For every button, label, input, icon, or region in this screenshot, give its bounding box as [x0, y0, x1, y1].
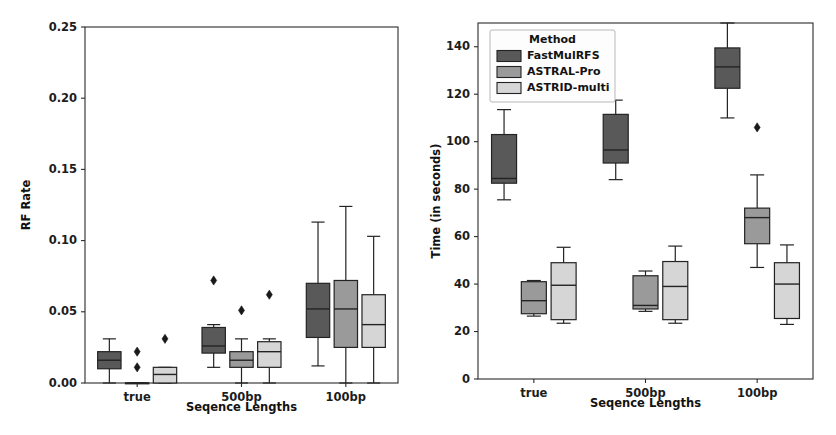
y-tick-label: 20 — [454, 324, 470, 338]
box-body — [153, 367, 176, 383]
box-right-true-ASTRAL-Pro — [521, 281, 546, 317]
legend-label-astrid-multi: ASTRID-multi — [527, 81, 610, 94]
box-body — [551, 263, 576, 320]
legend-title: Method — [529, 33, 576, 46]
legend-label-astral-pro: ASTRAL-Pro — [527, 65, 601, 78]
box-body — [334, 280, 357, 347]
outlier-marker — [134, 347, 140, 356]
box-body — [258, 342, 281, 368]
y-tick-label: 0.05 — [49, 304, 77, 318]
box-body — [745, 208, 770, 244]
legend-swatch-fastmulrfs — [497, 51, 521, 62]
x-tick-label: 100bp — [326, 390, 366, 404]
y-tick-label: 120 — [446, 87, 470, 101]
outlier-marker — [754, 123, 760, 132]
y-tick-label: 0.10 — [49, 233, 77, 247]
x-tick-label: true — [124, 390, 151, 404]
x-axis-label: Seqence Lengths — [186, 400, 297, 414]
outlier-marker — [162, 334, 168, 343]
x-tick-label: 100bp — [737, 386, 777, 400]
legend-swatch-astrid-multi — [497, 83, 521, 94]
box-right-500bp-FastMulRFS — [603, 100, 628, 180]
box-right-100bp-ASTRID-multi — [774, 245, 799, 325]
outlier-marker — [239, 306, 245, 315]
box-left-500bp-ASTRAL-Pro — [230, 306, 253, 383]
y-tick-label: 0 — [462, 372, 470, 386]
x-tick-label: true — [520, 386, 547, 400]
box-right-500bp-ASTRAL-Pro — [633, 271, 658, 311]
legend: MethodFastMulRFSASTRAL-ProASTRID-multi — [490, 30, 615, 102]
figure-root: 0.000.050.100.150.200.25true500bp100bpSe… — [0, 0, 836, 435]
box-left-100bp-FastMulRFS — [306, 222, 329, 366]
legend-label-fastmulrfs: FastMulRFS — [527, 49, 600, 62]
outlier-marker — [134, 363, 140, 372]
box-body — [633, 276, 658, 309]
runtime-boxplot-svg: 020406080100120140true500bp100bpSeqence … — [418, 0, 836, 435]
y-tick-label: 0.25 — [49, 20, 77, 34]
box-left-100bp-ASTRID-multi — [362, 236, 385, 383]
x-axis-label: Seqence Lengths — [590, 396, 701, 410]
box-left-true-ASTRID-multi — [153, 334, 176, 383]
box-left-true-ASTRAL-Pro — [125, 347, 148, 384]
box-right-100bp-ASTRAL-Pro — [745, 123, 770, 268]
y-tick-label: 40 — [454, 277, 470, 291]
legend-swatch-astral-pro — [497, 67, 521, 78]
box-body — [521, 282, 546, 314]
y-tick-label: 100 — [446, 134, 470, 148]
box-right-100bp-FastMulRFS — [715, 23, 740, 118]
y-tick-label: 60 — [454, 229, 470, 243]
y-tick-label: 0.00 — [49, 376, 77, 390]
box-body — [230, 352, 253, 368]
box-right-true-FastMulRFS — [492, 110, 517, 200]
panel-runtime: 020406080100120140true500bp100bpSeqence … — [418, 0, 836, 435]
box-body — [663, 262, 688, 320]
y-tick-label: 80 — [454, 182, 470, 196]
box-left-true-FastMulRFS — [98, 339, 121, 383]
rf-rate-boxplot-svg: 0.000.050.100.150.200.25true500bp100bpSe… — [0, 0, 418, 435]
box-body — [603, 114, 628, 163]
box-left-500bp-FastMulRFS — [202, 276, 225, 367]
box-left-100bp-ASTRAL-Pro — [334, 206, 357, 383]
box-right-500bp-ASTRID-multi — [663, 246, 688, 323]
box-right-true-ASTRID-multi — [551, 247, 576, 323]
box-body — [202, 327, 225, 353]
y-tick-label: 0.15 — [49, 162, 77, 176]
box-body — [306, 283, 329, 337]
outlier-marker — [266, 290, 272, 299]
y-axis-label: Time (in seconds) — [429, 144, 443, 259]
outlier-marker — [211, 276, 217, 285]
y-axis-label: RF Rate — [19, 179, 33, 230]
box-body — [362, 295, 385, 348]
y-tick-label: 0.20 — [49, 91, 77, 105]
box-body — [774, 263, 799, 319]
y-tick-label: 140 — [446, 39, 470, 53]
box-body — [715, 48, 740, 88]
panel-rf-rate: 0.000.050.100.150.200.25true500bp100bpSe… — [0, 0, 418, 435]
box-left-500bp-ASTRID-multi — [258, 290, 281, 383]
box-body — [492, 135, 517, 184]
